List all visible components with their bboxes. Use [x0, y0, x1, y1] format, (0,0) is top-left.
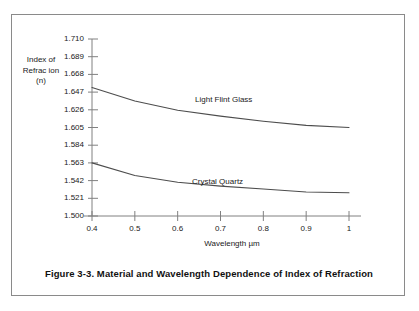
y-axis-tick-label: 1.710	[50, 34, 84, 44]
x-axis-tick-label: 0.8	[251, 224, 275, 234]
y-axis-tick-label: 1.542	[50, 176, 84, 186]
y-axis-ticks	[88, 39, 98, 216]
figure-container: Index of Refrac ion (n) Wavelength µm 1.…	[11, 14, 405, 296]
series-label-light-flint-glass: Light Flint Glass	[195, 95, 252, 104]
series-label-crystal-quartz: Crystal Quartz	[192, 177, 243, 186]
y-axis-tick-label: 1.605	[50, 123, 84, 133]
chart-plot-area: Index of Refrac ion (n) Wavelength µm 1.…	[12, 15, 406, 255]
x-axis-title: Wavelength µm	[152, 239, 312, 248]
x-axis-tick-label: 0.7	[209, 224, 233, 234]
x-axis-tick-label: 1	[337, 224, 361, 234]
y-axis-tick-label: 1.563	[50, 158, 84, 168]
y-axis-tick-label: 1.668	[50, 69, 84, 79]
x-axis-tick-label: 0.9	[294, 224, 318, 234]
x-axis-tick-label: 0.4	[80, 224, 104, 234]
x-axis-tick-label: 0.6	[166, 224, 190, 234]
series-line-light-flint-glass	[92, 87, 349, 127]
y-axis-tick-label: 1.521	[50, 193, 84, 203]
figure-caption: Figure 3-3. Material and Wavelength Depe…	[12, 268, 406, 279]
y-axis-tick-label: 1.626	[50, 105, 84, 115]
y-axis-tick-label: 1.584	[50, 140, 84, 150]
x-axis-tick-label: 0.5	[123, 224, 147, 234]
y-axis-tick-label: 1.647	[50, 87, 84, 97]
y-axis-tick-label: 1.689	[50, 52, 84, 62]
y-axis-tick-label: 1.500	[50, 211, 84, 221]
